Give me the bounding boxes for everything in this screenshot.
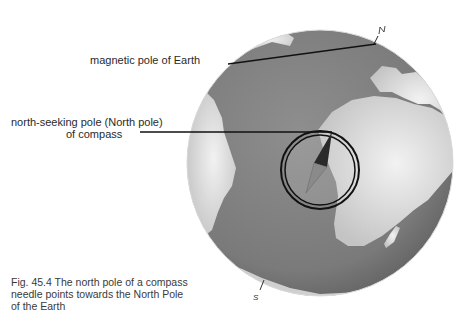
- magnetic-pole-label: magnetic pole of Earth: [90, 54, 200, 67]
- globe-diagram: S: [0, 0, 463, 314]
- north-axis-mark: [374, 26, 385, 44]
- compass: [281, 131, 359, 209]
- south-pole-label: S: [253, 293, 259, 302]
- figure-caption: Fig. 45.4 The north pole of a compass ne…: [11, 276, 188, 312]
- figure: S magnetic pole of Earth north-seeking p…: [0, 0, 463, 314]
- caption-line: of the Earth: [11, 300, 188, 312]
- caption-line: needle points towards the North Pole: [11, 288, 188, 300]
- caption-line: Fig. 45.4 The north pole of a compass: [11, 276, 188, 288]
- north-seeking-pole-label-line2: of compass: [66, 128, 122, 141]
